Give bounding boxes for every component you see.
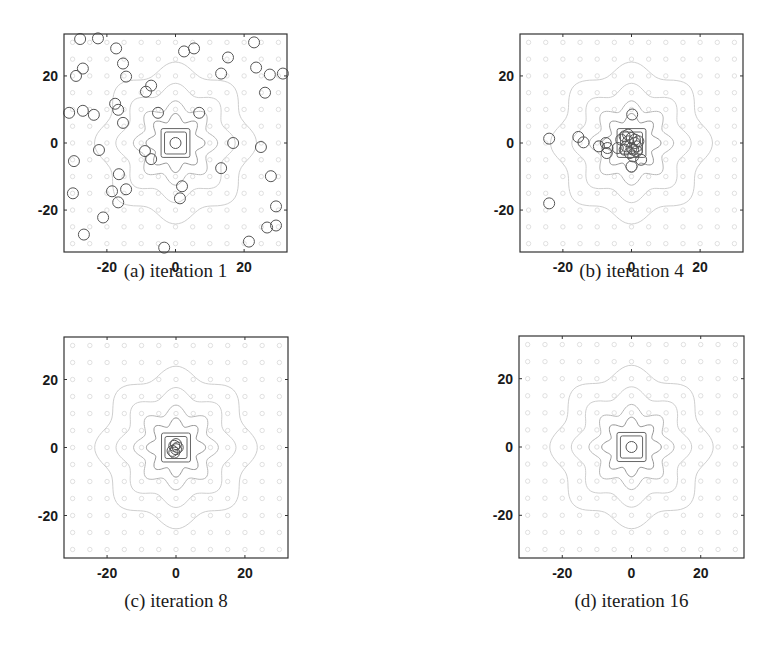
y-tick-label: 20 [497,371,513,387]
y-tick-label: 0 [505,439,513,455]
caption-c: (c) iteration 8 [64,590,288,612]
caption-b: (b) iteration 4 [520,260,743,282]
scatter-plot-d: -20020-20020 [0,0,776,648]
axes-frame [519,336,744,558]
caption-a: (a) iteration 1 [64,260,287,282]
data-points [626,442,637,453]
caption-d: (d) iteration 16 [519,590,744,612]
y-tick-label: -20 [493,507,513,523]
x-tick-label: 0 [628,565,636,581]
x-tick-label: 20 [693,565,709,581]
contour-background [525,342,737,551]
x-tick-label: -20 [552,565,572,581]
